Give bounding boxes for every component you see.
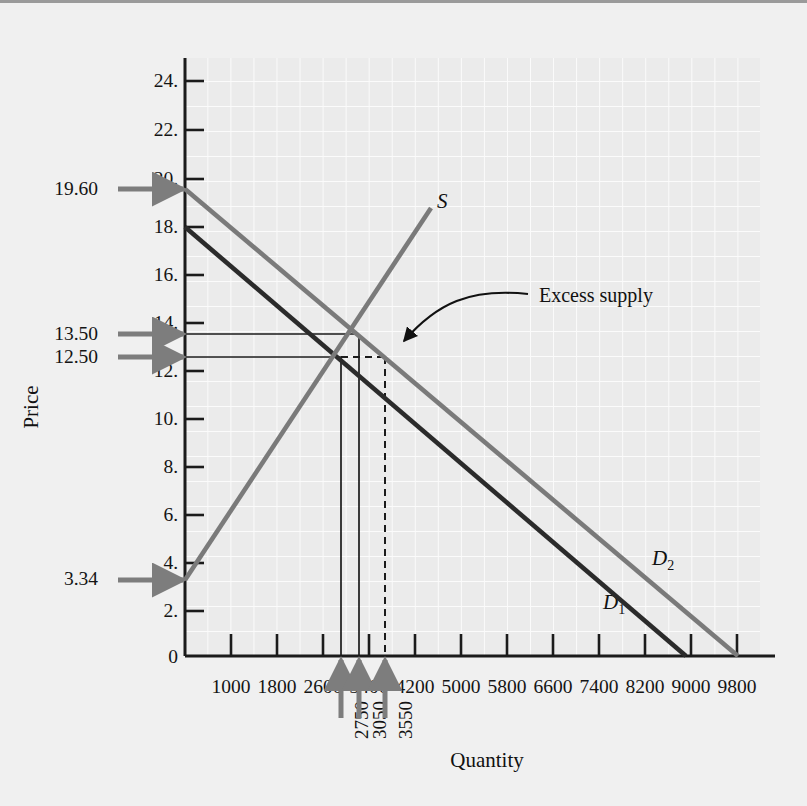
curve-demand-2 [185, 189, 738, 656]
y-axis-ticks [185, 81, 204, 611]
excess-supply-arrow [404, 293, 528, 341]
curve-supply [185, 208, 431, 580]
chart-vector-layer [0, 3, 807, 806]
chart-page: 24. 22. 20. 18. 16. 14. 12. 10. 8. 6. 4.… [0, 0, 807, 806]
curve-demand-1 [185, 227, 686, 656]
